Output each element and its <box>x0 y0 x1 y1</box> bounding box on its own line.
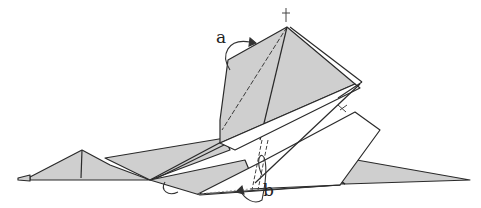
origami-diagram <box>0 0 481 208</box>
tail-flaps <box>18 175 30 181</box>
label-a: a <box>216 29 226 46</box>
label-b: b <box>263 182 274 199</box>
